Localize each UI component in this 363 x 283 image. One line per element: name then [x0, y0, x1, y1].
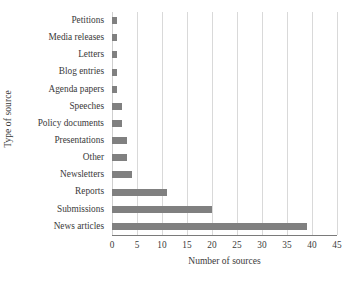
y-axis-label: Policy documents — [16, 115, 108, 132]
bar-row — [112, 218, 337, 235]
y-axis-label: Letters — [16, 46, 108, 63]
y-axis-label: Blog entries — [16, 63, 108, 80]
bar — [112, 103, 122, 110]
bar-row — [112, 201, 337, 218]
bar — [112, 69, 117, 76]
x-axis-line — [112, 235, 337, 236]
y-axis-label: News articles — [16, 218, 108, 235]
x-axis-tick-label: 40 — [307, 238, 316, 252]
plot-area — [112, 12, 337, 235]
bar-row — [112, 115, 337, 132]
x-axis-tick-label: 30 — [257, 238, 266, 252]
bar-row — [112, 81, 337, 98]
x-axis-title: Number of sources — [112, 256, 337, 266]
y-axis-label: Agenda papers — [16, 81, 108, 98]
y-axis-label: Petitions — [16, 12, 108, 29]
bar — [112, 120, 122, 127]
bar — [112, 137, 127, 144]
bar-series — [112, 12, 337, 235]
bar — [112, 206, 212, 213]
bar-row — [112, 184, 337, 201]
bar — [112, 154, 127, 161]
x-axis-tick-label: 25 — [232, 238, 241, 252]
bar — [112, 223, 307, 230]
bar-row — [112, 98, 337, 115]
bar-row — [112, 29, 337, 46]
y-axis-label: Media releases — [16, 29, 108, 46]
bar-row — [112, 149, 337, 166]
y-axis-title: Type of source — [0, 0, 16, 238]
x-axis-tick-label: 15 — [182, 238, 191, 252]
y-axis-label: Newsletters — [16, 166, 108, 183]
bar — [112, 34, 117, 41]
y-axis-label: Other — [16, 149, 108, 166]
bar-row — [112, 132, 337, 149]
bar-row — [112, 166, 337, 183]
bar — [112, 189, 167, 196]
bar-row — [112, 63, 337, 80]
bar — [112, 86, 117, 93]
x-axis-tick-label: 45 — [332, 238, 341, 252]
bar — [112, 17, 117, 24]
y-axis-label: Submissions — [16, 201, 108, 218]
y-axis-category-labels: PetitionsMedia releasesLettersBlog entri… — [16, 12, 108, 235]
x-axis-tick-label: 0 — [110, 238, 115, 252]
y-axis-title-text: Type of source — [3, 90, 13, 148]
bar-row — [112, 46, 337, 63]
x-axis-tick-label: 35 — [282, 238, 291, 252]
x-axis-tick-label: 5 — [135, 238, 140, 252]
y-axis-label: Speeches — [16, 98, 108, 115]
bar — [112, 51, 117, 58]
x-axis-tick-labels: 051015202530354045 — [112, 238, 337, 252]
bar-row — [112, 12, 337, 29]
x-axis-tick-label: 20 — [207, 238, 216, 252]
y-axis-label: Reports — [16, 184, 108, 201]
y-axis-label: Presentations — [16, 132, 108, 149]
gridline — [337, 12, 338, 235]
bar-chart: Type of source PetitionsMedia releasesLe… — [0, 0, 363, 283]
bar — [112, 171, 132, 178]
x-axis-tick-label: 10 — [157, 238, 166, 252]
